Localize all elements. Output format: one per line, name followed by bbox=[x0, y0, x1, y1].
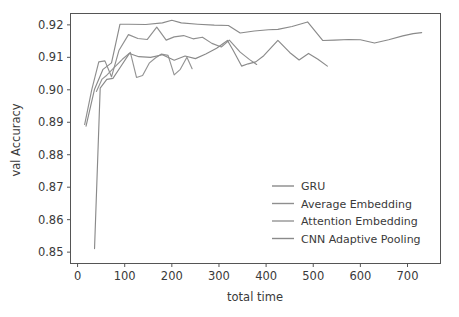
y-tick-label: 0.90 bbox=[38, 83, 64, 97]
y-axis-ticks: 0.850.860.870.880.890.900.910.92 bbox=[38, 18, 71, 259]
x-tick-label: 600 bbox=[349, 269, 371, 283]
y-tick-label: 0.87 bbox=[38, 180, 64, 194]
legend-label-average-embedding: Average Embedding bbox=[301, 198, 412, 211]
y-tick-label: 0.89 bbox=[38, 115, 64, 129]
series-line-average-embedding bbox=[85, 27, 257, 124]
y-axis-label: val Accuracy bbox=[9, 103, 23, 176]
series-line-gru bbox=[86, 20, 422, 126]
legend-label-attention-embedding: Attention Embedding bbox=[301, 215, 418, 228]
legend-label-cnn-adaptive-pooling: CNN Adaptive Pooling bbox=[301, 233, 421, 246]
y-tick-label: 0.88 bbox=[38, 148, 64, 162]
x-axis-ticks: 0100200300400500600700 bbox=[74, 264, 419, 283]
x-tick-label: 200 bbox=[161, 269, 183, 283]
y-tick-label: 0.91 bbox=[38, 50, 64, 64]
x-tick-label: 400 bbox=[255, 269, 277, 283]
x-tick-label: 500 bbox=[302, 269, 324, 283]
y-tick-label: 0.92 bbox=[38, 18, 64, 32]
x-tick-label: 0 bbox=[74, 269, 81, 283]
chart-figure: 0100200300400500600700 0.850.860.870.880… bbox=[0, 0, 459, 317]
x-axis-label: total time bbox=[227, 290, 283, 304]
x-tick-label: 700 bbox=[397, 269, 419, 283]
legend-label-gru: GRU bbox=[301, 180, 325, 193]
x-tick-label: 300 bbox=[208, 269, 230, 283]
x-tick-label: 100 bbox=[114, 269, 136, 283]
line-chart-canvas: 0100200300400500600700 0.850.860.870.880… bbox=[0, 0, 459, 317]
y-tick-label: 0.86 bbox=[38, 213, 64, 227]
chart-legend: GRUAverage EmbeddingAttention EmbeddingC… bbox=[266, 174, 434, 252]
y-tick-label: 0.85 bbox=[38, 245, 64, 259]
